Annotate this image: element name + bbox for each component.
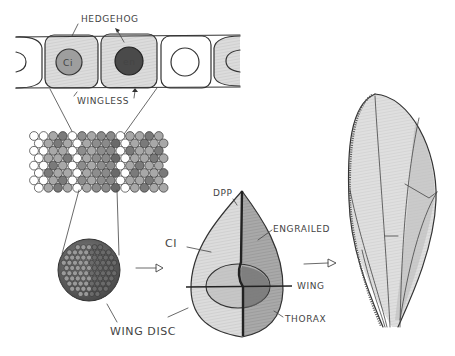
wing-disc-label: WING DISC bbox=[110, 325, 176, 338]
thorax-label: THORAX bbox=[284, 314, 326, 324]
dpp-label: DPP bbox=[213, 188, 233, 198]
wing-disc-sphere bbox=[58, 239, 120, 301]
ci-label: CI bbox=[165, 237, 177, 250]
dv-boundary bbox=[186, 286, 292, 287]
nucleus-en-label: en bbox=[123, 57, 135, 67]
zoom-line-left bbox=[50, 89, 75, 137]
arrow-map-to-wing bbox=[304, 259, 336, 267]
arrowhead-icon bbox=[115, 28, 120, 33]
nucleus-ci-label: Ci bbox=[63, 58, 73, 68]
disc-fate-map bbox=[186, 191, 292, 337]
cell-row: Ci en bbox=[16, 34, 240, 88]
wingless-arrow bbox=[134, 91, 135, 98]
arrow-disc-to-map bbox=[136, 264, 163, 272]
wingless-label: WINGLESS bbox=[77, 96, 129, 106]
hedgehog-leader-line bbox=[72, 24, 78, 36]
zoom-line-disc-right bbox=[117, 190, 119, 255]
wing-disc-leader-line bbox=[107, 304, 117, 322]
engrailed-label: ENGRAILED bbox=[273, 224, 330, 234]
wing-disc-leader-line-2 bbox=[168, 308, 188, 317]
wing-development-diagram: Ci en HEDGEHOG WINGLESS WING DISC bbox=[0, 0, 455, 356]
hedgehog-label: HEDGEHOG bbox=[81, 14, 139, 24]
wing-label: WING bbox=[297, 281, 325, 291]
cell-plain bbox=[161, 36, 211, 88]
adult-wing bbox=[348, 94, 437, 327]
tissue-patch bbox=[30, 132, 168, 193]
